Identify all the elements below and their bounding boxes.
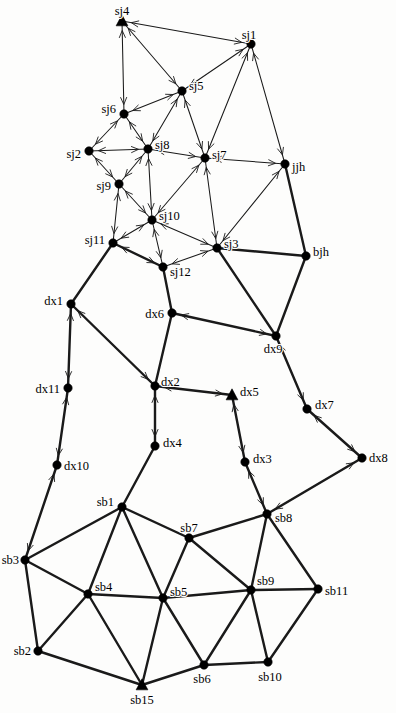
graph-node-sb4[interactable] <box>84 590 92 598</box>
graph-node-label-sb10: sb10 <box>258 670 282 684</box>
graph-node-label-dx3: dx3 <box>253 452 272 466</box>
graph-edge <box>38 651 142 685</box>
graph-node-label-sj3: sj3 <box>224 237 239 251</box>
graph-edge <box>122 21 124 114</box>
graph-node-sj10[interactable] <box>148 216 156 224</box>
graph-edge <box>71 304 155 386</box>
graph-node-dx6[interactable] <box>168 309 176 317</box>
graph-edge <box>88 594 142 685</box>
graph-edge <box>113 184 119 243</box>
graph-node-sb7[interactable] <box>185 534 193 542</box>
graph-node-label-sj11: sj11 <box>85 233 105 247</box>
graph-node-sj12[interactable] <box>159 263 167 271</box>
graph-node-label-dx9: dx9 <box>264 342 283 356</box>
graph-node-dx8[interactable] <box>358 454 366 462</box>
graph-node-label-sb6: sb6 <box>193 672 210 686</box>
graph-edge <box>251 590 268 662</box>
graph-node-sb11[interactable] <box>314 585 322 593</box>
edge-arrowhead <box>121 232 129 238</box>
graph-node-label-sj4: sj4 <box>115 4 130 18</box>
graph-node-jjh[interactable] <box>281 160 289 168</box>
graph-node-sj3[interactable] <box>213 244 221 252</box>
graph-edge <box>38 594 88 651</box>
graph-edge <box>119 149 148 184</box>
graph-node-sb8[interactable] <box>263 510 271 518</box>
graph-node-sj5[interactable] <box>178 87 186 95</box>
graph-node-sj7[interactable] <box>201 154 209 162</box>
graph-node-label-sj6: sj6 <box>101 102 116 116</box>
graph-canvas: sj4sj1sj5sj6sj2sj8sj7jjhsj9sj10sj3bjhsj1… <box>0 0 396 713</box>
edge-arrowhead <box>236 49 243 55</box>
graph-node-label-sb2: sb2 <box>14 644 31 658</box>
graph-edge <box>205 44 251 158</box>
graph-edge <box>113 220 152 243</box>
graph-node-label-sj5: sj5 <box>189 79 204 93</box>
graph-edge <box>276 256 306 336</box>
graph-node-sb2[interactable] <box>34 647 42 655</box>
graph-node-label-dx2: dx2 <box>161 375 180 389</box>
graph-node-sb1[interactable] <box>118 503 126 511</box>
graph-node-dx1[interactable] <box>67 300 75 308</box>
graph-edge <box>113 243 163 267</box>
graph-node-sj11[interactable] <box>109 239 117 247</box>
graph-edge <box>267 458 362 514</box>
graph-node-sb3[interactable] <box>21 556 29 564</box>
graph-edge <box>122 21 251 44</box>
graph-node-dx2[interactable] <box>151 382 159 390</box>
graph-edge <box>217 164 285 248</box>
graph-node-sb5[interactable] <box>159 594 167 602</box>
graph-edge <box>152 220 163 267</box>
graph-node-label-sj1: sj1 <box>242 28 257 42</box>
graph-node-label-sb5: sb5 <box>170 585 187 599</box>
graph-edge <box>148 149 152 220</box>
graph-node-label-sb11: sb11 <box>325 584 348 598</box>
graph-edge <box>204 590 251 665</box>
graph-edge <box>124 114 148 149</box>
graph-node-label-dx7: dx7 <box>315 398 334 412</box>
graph-node-label-sj7: sj7 <box>212 148 227 162</box>
graph-edge <box>267 514 318 589</box>
graph-node-dx7[interactable] <box>303 405 311 413</box>
edge-layer <box>25 21 362 685</box>
network-graph-figure: sj4sj1sj5sj6sj2sj8sj7jjhsj9sj10sj3bjhsj1… <box>0 0 396 713</box>
graph-node-dx10[interactable] <box>53 461 61 469</box>
graph-node-sj6[interactable] <box>120 110 128 118</box>
graph-edge <box>88 594 163 598</box>
graph-node-bjh[interactable] <box>302 252 310 260</box>
graph-edge <box>163 598 204 665</box>
graph-node-label-sb8: sb8 <box>275 511 292 525</box>
graph-node-label-bjh: bjh <box>313 245 330 259</box>
graph-node-label-dx11: dx11 <box>35 382 60 396</box>
graph-edge <box>122 507 189 538</box>
graph-edge <box>89 114 124 151</box>
graph-node-dx3[interactable] <box>241 458 249 466</box>
graph-node-label-sj10: sj10 <box>159 209 180 223</box>
graph-node-sj2[interactable] <box>85 147 93 155</box>
graph-edge <box>71 243 113 304</box>
label-layer: sj4sj1sj5sj6sj2sj8sj7jjhsj9sj10sj3bjhsj1… <box>2 4 388 707</box>
graph-edge <box>25 560 38 651</box>
graph-node-label-dx1: dx1 <box>44 294 63 308</box>
graph-node-sb9[interactable] <box>247 586 255 594</box>
graph-edge <box>142 598 163 685</box>
graph-node-dx4[interactable] <box>151 442 159 450</box>
graph-node-label-sb15: sb15 <box>130 693 154 707</box>
graph-node-label-sb4: sb4 <box>95 580 113 594</box>
graph-edge <box>122 507 163 598</box>
graph-node-label-dx5: dx5 <box>240 385 259 399</box>
graph-edge <box>119 184 152 220</box>
graph-node-sj9[interactable] <box>115 180 123 188</box>
graph-edge <box>205 158 217 248</box>
graph-node-label-jjh: jjh <box>291 160 306 174</box>
graph-node-sj8[interactable] <box>144 145 152 153</box>
graph-edge <box>189 538 251 590</box>
graph-node-sb6[interactable] <box>200 661 208 669</box>
graph-node-label-dx8: dx8 <box>369 451 388 465</box>
graph-edge <box>245 462 267 514</box>
graph-node-dx9[interactable] <box>272 332 280 340</box>
graph-node-sb10[interactable] <box>264 658 272 666</box>
graph-node-dx11[interactable] <box>64 384 72 392</box>
edge-arrowhead <box>129 122 135 129</box>
graph-edge <box>251 589 318 590</box>
graph-edge <box>122 446 155 507</box>
